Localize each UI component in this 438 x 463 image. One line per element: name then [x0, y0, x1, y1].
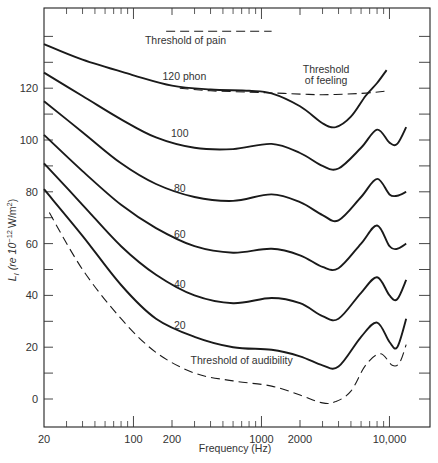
annotations: Threshold of pain120 phonThresholdof fee…	[145, 34, 350, 366]
x-tick-label: 100	[124, 433, 142, 445]
annotation-label: 120 phon	[163, 70, 207, 82]
y-tick-label: 40	[26, 289, 38, 301]
y-tick-label: 0	[32, 393, 38, 405]
curve-60	[44, 135, 406, 270]
curve-100	[44, 73, 406, 170]
svg-text:LI(re 10−12W/m2): LI(re 10−12W/m2)	[5, 199, 21, 282]
y-tick-label: 80	[26, 186, 38, 198]
x-tick-label: 20	[38, 433, 50, 445]
annotation-label: of feeling	[305, 74, 348, 86]
annotation-label: 80	[174, 182, 186, 194]
x-tick-label: 10,000	[373, 433, 407, 445]
equal-loudness-chart: 201002001000200010,000020406080100120 Th…	[0, 0, 438, 463]
curve-threshold-of-audibility	[49, 213, 406, 404]
x-tick-label: 200	[163, 433, 181, 445]
annotation-label: 20	[174, 319, 186, 331]
curve-80	[44, 101, 406, 221]
annotation-label: 40	[174, 278, 186, 290]
annotation-label: 100	[171, 127, 189, 139]
curve-40	[44, 163, 406, 320]
loudness-curves	[44, 31, 406, 403]
x-tick-label: 2000	[288, 433, 312, 445]
curve-20	[44, 189, 406, 369]
annotation-label: Threshold of pain	[145, 34, 226, 46]
x-axis-label: Frequency (Hz)	[199, 442, 271, 454]
annotation-label: 60	[174, 228, 186, 240]
annotation-label: Threshold of audibility	[191, 354, 294, 366]
y-tick-label: 60	[26, 238, 38, 250]
y-axis-label: LI(re 10−12W/m2)	[5, 199, 21, 282]
y-tick-label: 100	[20, 134, 38, 146]
annotation-label: Threshold	[303, 63, 350, 75]
y-tick-label: 120	[20, 82, 38, 94]
y-tick-label: 20	[26, 341, 38, 353]
